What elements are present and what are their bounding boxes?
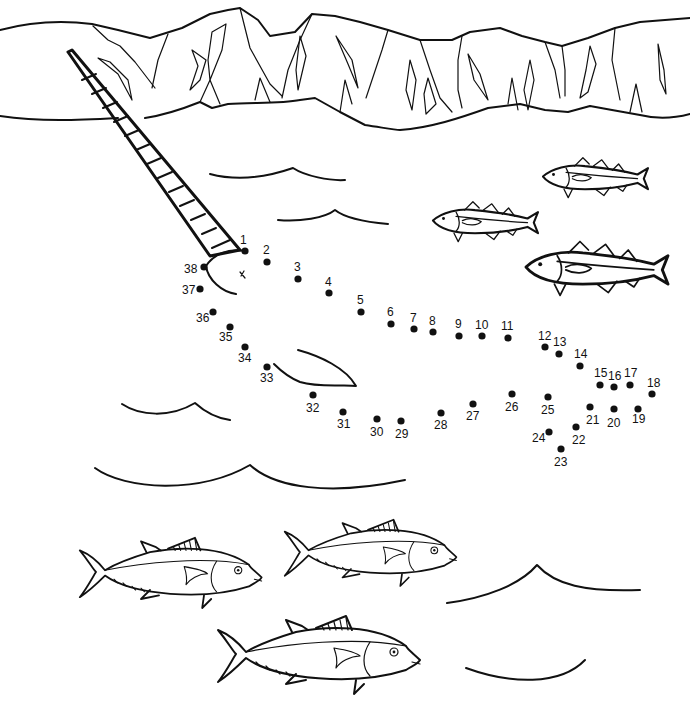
dot-16[interactable]: 16: [608, 369, 622, 391]
dot-number: 22: [572, 433, 586, 447]
dot-marker[interactable]: [626, 381, 633, 388]
dot-20[interactable]: 20: [607, 405, 621, 430]
dot-number: 27: [466, 409, 480, 423]
dot-36[interactable]: 36: [196, 308, 217, 325]
dot-5[interactable]: 5: [357, 293, 365, 316]
dot-number: 18: [647, 376, 661, 390]
dot-number: 32: [306, 401, 320, 415]
tuna-fish-2: [285, 520, 457, 586]
dot-number: 13: [553, 335, 567, 349]
dot-10[interactable]: 10: [475, 318, 489, 340]
dot-number: 30: [370, 425, 384, 439]
narwhal-flipper: [274, 350, 356, 386]
dot-marker[interactable]: [196, 285, 203, 292]
dot-marker[interactable]: [596, 381, 603, 388]
dot-2[interactable]: 2: [263, 243, 271, 266]
dot-number: 31: [337, 417, 351, 431]
dot-marker[interactable]: [373, 415, 380, 422]
dot-23[interactable]: 23: [554, 445, 568, 469]
dot-29[interactable]: 29: [395, 417, 409, 441]
dot-35[interactable]: 35: [219, 323, 234, 344]
dot-3[interactable]: 3: [294, 260, 302, 283]
dot-marker[interactable]: [557, 445, 564, 452]
dot-33[interactable]: 33: [260, 363, 274, 385]
dot-9[interactable]: 9: [455, 317, 463, 340]
dot-24[interactable]: 24: [532, 428, 553, 445]
dot-number: 17: [624, 366, 638, 380]
dot-8[interactable]: 8: [429, 314, 437, 336]
dot-marker[interactable]: [544, 393, 551, 400]
dot-26[interactable]: 26: [505, 390, 519, 414]
dot-marker[interactable]: [263, 258, 270, 265]
dot-number: 10: [475, 318, 489, 332]
cod-fish-3: [526, 241, 668, 295]
dot-12[interactable]: 12: [538, 329, 552, 351]
dot-marker[interactable]: [576, 362, 583, 369]
dot-marker[interactable]: [387, 320, 394, 327]
dot-marker[interactable]: [541, 343, 548, 350]
dot-number: 24: [532, 431, 546, 445]
dot-14[interactable]: 14: [574, 347, 588, 370]
dot-marker[interactable]: [209, 308, 216, 315]
dot-38[interactable]: 38: [184, 262, 208, 276]
dot-marker[interactable]: [241, 343, 248, 350]
dot-marker[interactable]: [555, 350, 562, 357]
dot-marker[interactable]: [325, 289, 332, 296]
dot-11[interactable]: 11: [501, 319, 514, 342]
dot-number: 33: [260, 371, 274, 385]
dot-4[interactable]: 4: [325, 275, 333, 297]
dot-marker[interactable]: [478, 332, 485, 339]
dot-15[interactable]: 15: [594, 366, 608, 389]
dot-28[interactable]: 28: [434, 409, 448, 432]
dot-marker[interactable]: [294, 275, 301, 282]
dot-marker[interactable]: [648, 390, 655, 397]
dot-marker[interactable]: [309, 391, 316, 398]
dot-37[interactable]: 37: [182, 283, 204, 297]
dot-number: 29: [395, 427, 409, 441]
dot-32[interactable]: 32: [306, 391, 320, 415]
dot-25[interactable]: 25: [541, 393, 555, 417]
dot-19[interactable]: 19: [632, 405, 646, 426]
dot-marker[interactable]: [357, 308, 364, 315]
dot-18[interactable]: 18: [647, 376, 661, 398]
dot-22[interactable]: 22: [572, 423, 586, 447]
dot-number: 37: [182, 283, 196, 297]
dot-marker[interactable]: [429, 328, 436, 335]
worksheet-canvas: 1234567891011121314151617181920212223242…: [0, 0, 690, 716]
dot-marker[interactable]: [455, 332, 462, 339]
dot-marker[interactable]: [508, 390, 515, 397]
dot-7[interactable]: 7: [410, 311, 418, 333]
dot-31[interactable]: 31: [337, 408, 351, 431]
dot-number: 1: [240, 233, 247, 247]
dot-marker[interactable]: [545, 428, 552, 435]
dot-30[interactable]: 30: [370, 415, 384, 439]
dot-marker[interactable]: [200, 263, 207, 270]
cod-fish-1: [543, 158, 648, 198]
dot-number: 26: [505, 400, 519, 414]
dot-17[interactable]: 17: [624, 366, 638, 389]
dot-marker[interactable]: [469, 400, 476, 407]
dot-13[interactable]: 13: [553, 335, 567, 358]
dot-34[interactable]: 34: [238, 343, 252, 365]
dot-number: 7: [410, 311, 417, 325]
dot-27[interactable]: 27: [466, 400, 480, 423]
dot-number: 5: [357, 293, 364, 307]
dot-marker[interactable]: [410, 325, 417, 332]
dot-marker[interactable]: [572, 423, 579, 430]
dot-number: 28: [434, 418, 448, 432]
dot-marker[interactable]: [263, 363, 270, 370]
dot-marker[interactable]: [586, 403, 593, 410]
dot-number: 38: [184, 262, 198, 276]
dot-marker[interactable]: [339, 408, 346, 415]
dot-marker[interactable]: [504, 334, 511, 341]
dot-marker[interactable]: [241, 247, 248, 254]
mountain-range: [0, 8, 690, 130]
dot-marker[interactable]: [397, 417, 404, 424]
dot-marker[interactable]: [437, 409, 444, 416]
dot-number: 16: [608, 369, 622, 383]
dot-21[interactable]: 21: [586, 403, 600, 427]
dot-number: 19: [632, 412, 646, 426]
dot-marker[interactable]: [610, 383, 617, 390]
dot-6[interactable]: 6: [387, 305, 395, 328]
dot-marker[interactable]: [610, 405, 617, 412]
